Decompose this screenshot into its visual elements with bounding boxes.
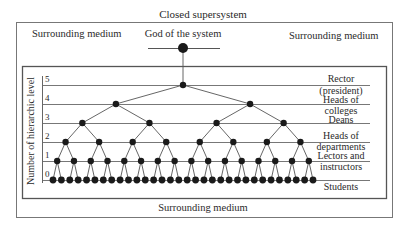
student-node (284, 177, 291, 184)
student-node (217, 177, 224, 184)
tree-edge (149, 123, 166, 142)
department-head-node (129, 139, 135, 145)
level-number: 2 (45, 132, 50, 141)
surrounding-medium-right: Surrounding medium (289, 31, 379, 42)
dean-node (79, 120, 85, 126)
department-head-node (96, 139, 102, 145)
student-node (142, 177, 149, 184)
department-head-node (62, 139, 68, 145)
student-node (75, 177, 82, 184)
dean-node (146, 120, 152, 126)
tree-edge (66, 123, 83, 142)
lector-node (222, 158, 228, 164)
lector-node (272, 158, 278, 164)
student-node (251, 177, 258, 184)
level-number: 4 (45, 94, 50, 103)
lector-node (121, 158, 127, 164)
role-label: Heads of (301, 131, 381, 141)
tree-edge (267, 123, 284, 142)
dean-node (213, 120, 219, 126)
tree-edge (217, 123, 234, 142)
hierarchy-diagram: Closed supersystem Surrounding medium Go… (0, 0, 406, 232)
student-node (293, 177, 300, 184)
student-node (234, 177, 241, 184)
lector-node (171, 158, 177, 164)
role-label: instructors (301, 162, 381, 172)
diagram-title: Closed supersystem (0, 9, 406, 20)
role-label: Deans (301, 115, 381, 125)
student-node (92, 177, 99, 184)
tree-edge (116, 104, 150, 123)
level-number: 1 (45, 151, 50, 160)
lector-node (104, 158, 110, 164)
level-number: 5 (45, 75, 50, 84)
rector-node (180, 82, 186, 88)
department-head-node (163, 139, 169, 145)
lector-node (188, 158, 194, 164)
axis-title: Number of hierarchic level (26, 66, 36, 196)
lector-node (88, 158, 94, 164)
student-node (243, 177, 250, 184)
student-node (108, 177, 115, 184)
student-node (125, 177, 132, 184)
level-number: 0 (45, 170, 50, 179)
lector-node (255, 158, 261, 164)
tree-edge (133, 123, 150, 142)
department-head-node (264, 139, 270, 145)
tree-edge (217, 104, 251, 123)
department-head-node (230, 139, 236, 145)
student-node (58, 177, 65, 184)
student-node (226, 177, 233, 184)
surrounding-medium-left: Surrounding medium (32, 29, 122, 40)
tree-edge (200, 123, 217, 142)
tree-edge (183, 85, 250, 104)
dean-node (280, 120, 286, 126)
student-node (201, 177, 208, 184)
student-node (66, 177, 73, 184)
student-node (175, 177, 182, 184)
student-node (50, 177, 57, 184)
student-node (159, 177, 166, 184)
role-label: Rector (301, 74, 381, 84)
college-head-node (247, 101, 253, 107)
lector-node (289, 158, 295, 164)
college-head-node (113, 101, 119, 107)
lector-node (54, 158, 60, 164)
student-node (192, 177, 199, 184)
god-node (178, 43, 188, 53)
student-node (259, 177, 266, 184)
lector-node (138, 158, 144, 164)
tree-edge (82, 104, 116, 123)
department-head-node (197, 139, 203, 145)
lector-node (71, 158, 77, 164)
lector-node (155, 158, 161, 164)
student-node (100, 177, 107, 184)
student-node (167, 177, 174, 184)
lector-node (239, 158, 245, 164)
tree-edge (284, 123, 301, 142)
student-node (150, 177, 157, 184)
tree-edge (82, 123, 99, 142)
student-node (83, 177, 90, 184)
student-node (268, 177, 275, 184)
tree-edge (116, 85, 183, 104)
level-number: 3 (45, 113, 50, 122)
lector-node (205, 158, 211, 164)
surrounding-medium-bottom: Surrounding medium (0, 203, 406, 214)
role-label: Students (301, 182, 381, 192)
role-label: Heads of (301, 95, 381, 105)
student-node (184, 177, 191, 184)
role-label: Lectors and (301, 151, 381, 161)
god-of-system-label: God of the system (140, 29, 226, 40)
student-node (276, 177, 283, 184)
student-node (209, 177, 216, 184)
tree-edge (250, 104, 284, 123)
student-node (117, 177, 124, 184)
student-node (133, 177, 140, 184)
